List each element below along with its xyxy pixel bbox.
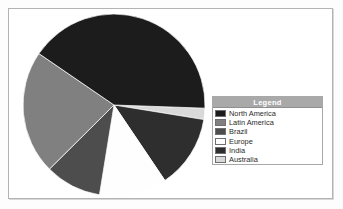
pie-chart-svg[interactable]: [14, 8, 214, 202]
legend-item-label: Latin America: [229, 118, 274, 127]
legend-item[interactable]: Latin America: [215, 118, 322, 127]
legend-swatch-icon: [215, 147, 226, 154]
legend-item[interactable]: India: [215, 146, 322, 155]
chart-legend[interactable]: Legend North AmericaLatin AmericaBrazilE…: [212, 96, 323, 165]
legend-item-label: Europe: [229, 137, 253, 146]
legend-item[interactable]: Europe: [215, 137, 322, 146]
legend-item-label: North America: [229, 109, 276, 118]
legend-swatch-icon: [215, 156, 226, 163]
legend-swatch-icon: [215, 138, 226, 145]
legend-swatch-icon: [215, 119, 226, 126]
legend-item-label: India: [229, 146, 245, 155]
pie-slices: [23, 14, 205, 196]
legend-item-label: Australia: [229, 155, 258, 164]
pie-chart[interactable]: [14, 8, 214, 202]
legend-item[interactable]: North America: [215, 109, 322, 118]
legend-item[interactable]: Brazil: [215, 127, 322, 136]
legend-swatch-icon: [215, 110, 226, 117]
legend-items: North AmericaLatin AmericaBrazilEuropeIn…: [213, 108, 322, 164]
legend-title: Legend: [213, 97, 322, 108]
legend-item-label: Brazil: [229, 127, 247, 136]
legend-swatch-icon: [215, 128, 226, 135]
screenshot-root: Legend North AmericaLatin AmericaBrazilE…: [0, 0, 343, 209]
pie-chart-area: [14, 8, 214, 202]
legend-item[interactable]: Australia: [215, 155, 322, 164]
